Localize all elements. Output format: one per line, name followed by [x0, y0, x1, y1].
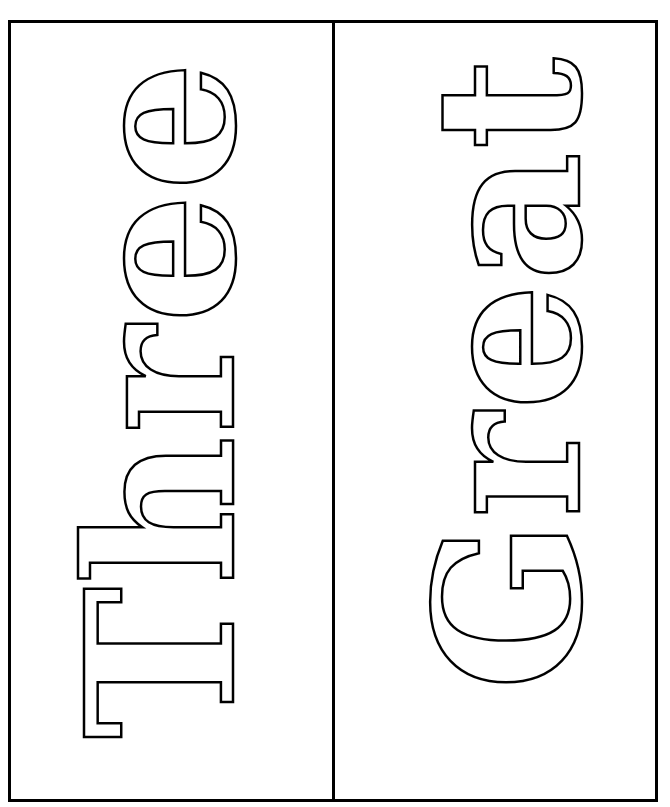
outline-word-great: Great	[409, 55, 609, 690]
right-panel: Great	[332, 23, 656, 799]
left-panel: Three	[11, 23, 332, 799]
coloring-sheet: Three Great	[8, 20, 658, 802]
outline-word-three: Three	[59, 59, 264, 739]
